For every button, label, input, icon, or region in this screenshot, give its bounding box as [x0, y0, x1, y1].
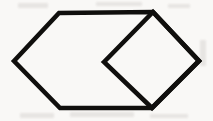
geometric-figure [0, 0, 213, 121]
inner-square-outline [104, 12, 199, 108]
figure-canvas [0, 0, 213, 121]
